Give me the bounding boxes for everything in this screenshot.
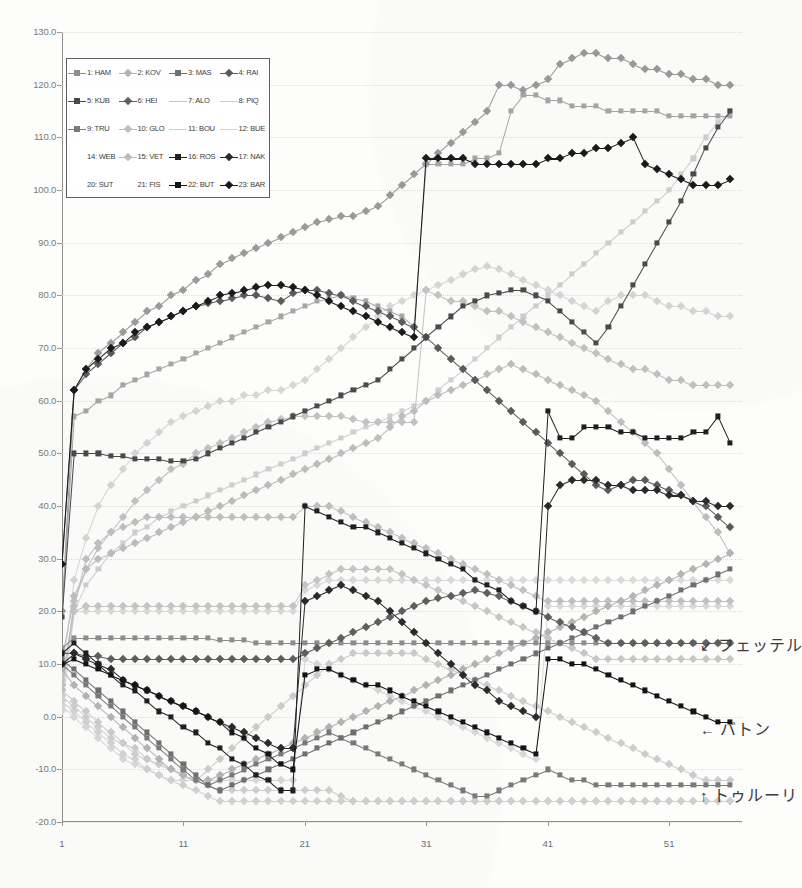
- legend-label: 20: SUT: [87, 181, 113, 189]
- legend-marker-icon: [220, 152, 238, 162]
- gridline: [62, 822, 742, 823]
- chart-root: 130.0120.0110.0100.090.080.070.060.050.0…: [0, 0, 802, 888]
- legend-item[interactable]: 10: GLO: [118, 116, 169, 142]
- series-marker: [62, 661, 65, 666]
- legend-item[interactable]: 16: ROS: [168, 144, 219, 170]
- legend-item[interactable]: 11: BOU: [168, 116, 219, 142]
- y-tick-label: 80.0: [0, 289, 56, 300]
- series-marker: [460, 719, 465, 724]
- series-marker: [594, 667, 599, 672]
- y-tick-label: 0.0: [0, 711, 56, 722]
- series-marker: [157, 693, 162, 698]
- legend-label: 23: BAR: [239, 181, 266, 189]
- series-marker: [205, 714, 210, 719]
- y-tick-label: 70.0: [0, 342, 56, 353]
- legend-item[interactable]: 1: HAM: [67, 60, 118, 86]
- legend-item[interactable]: 17: NAK: [219, 144, 270, 170]
- series-marker: [654, 693, 659, 698]
- y-tick-label: 100.0: [0, 184, 56, 195]
- series-segment: [292, 675, 305, 770]
- series-marker: [96, 667, 101, 672]
- legend-label: 1: HAM: [87, 69, 111, 77]
- legend-item[interactable]: 9: TRU: [67, 116, 118, 142]
- legend-item[interactable]: 5: KUB: [67, 88, 118, 114]
- legend-row: 1: HAM2: KOV3: MAS4: RAI: [67, 59, 269, 87]
- legend-marker-icon: [119, 68, 137, 78]
- legend-item[interactable]: 12: BUE: [219, 116, 270, 142]
- series-marker: [144, 688, 149, 693]
- series-marker: [278, 761, 283, 766]
- x-tick-label: 51: [664, 838, 675, 849]
- series-marker: [569, 661, 574, 666]
- y-tick-label: 60.0: [0, 395, 56, 406]
- y-tick-label: 130.0: [0, 26, 56, 37]
- series-marker: [217, 719, 222, 724]
- series-marker: [509, 740, 514, 745]
- series-marker: [642, 688, 647, 693]
- legend-marker-icon: [220, 96, 238, 106]
- legend-item[interactable]: 6: HEI: [118, 88, 169, 114]
- legend-label: 5: KUB: [87, 97, 110, 105]
- legend-label: 11: BOU: [188, 125, 215, 133]
- y-tick-label: 90.0: [0, 237, 56, 248]
- series-marker: [606, 672, 611, 677]
- series-marker: [132, 682, 137, 687]
- series-marker: [691, 709, 696, 714]
- y-tick-label: 20.0: [0, 605, 56, 616]
- annotation-label: フェッテル: [718, 637, 802, 654]
- series-marker: [229, 730, 234, 735]
- legend-marker-icon: [220, 180, 238, 190]
- series-marker: [618, 677, 623, 682]
- legend-marker-icon: [220, 124, 238, 134]
- legend-marker-icon: [169, 152, 187, 162]
- legend-item[interactable]: 4: RAI: [219, 60, 270, 86]
- legend-item[interactable]: 8: PIQ: [219, 88, 270, 114]
- x-tick-label: 31: [421, 838, 432, 849]
- legend-item[interactable]: 15: VET: [118, 144, 169, 170]
- legend-label: 6: HEI: [138, 97, 158, 105]
- legend-label: 8: PIQ: [239, 97, 259, 105]
- series-marker: [497, 735, 502, 740]
- legend-label: 4: RAI: [239, 69, 259, 77]
- series-marker: [108, 672, 113, 677]
- y-tick-label: -20.0: [0, 816, 56, 827]
- series-marker: [339, 672, 344, 677]
- annotation-label: トゥルーリ: [713, 787, 798, 804]
- series-marker: [84, 661, 89, 666]
- legend-row: 9: TRU10: GLO11: BOU12: BUE: [67, 115, 269, 143]
- chart-legend: 1: HAM2: KOV3: MAS4: RAI5: KUB6: HEI7: A…: [66, 58, 270, 198]
- series-marker: [375, 682, 380, 687]
- series-marker: [667, 698, 672, 703]
- x-tick-label: 21: [300, 838, 311, 849]
- legend-item[interactable]: 23: BAR: [219, 172, 270, 198]
- legend-marker-icon: [169, 124, 187, 134]
- series-marker: [557, 656, 562, 661]
- y-tick-label: 120.0: [0, 79, 56, 90]
- legend-label: 17: NAK: [239, 153, 266, 161]
- series-marker: [314, 667, 319, 672]
- legend-item[interactable]: 3: MAS: [168, 60, 219, 86]
- series-marker: [412, 698, 417, 703]
- driver-annotation: ←バトン: [700, 716, 771, 740]
- series-marker: [302, 672, 307, 677]
- legend-item[interactable]: 14: WEB: [67, 144, 118, 170]
- legend-row: 14: WEB15: VET16: ROS17: NAK: [67, 143, 269, 171]
- series-marker: [436, 709, 441, 714]
- series-marker: [545, 656, 550, 661]
- legend-item[interactable]: 7: ALO: [168, 88, 219, 114]
- legend-item[interactable]: 22: BUT: [168, 172, 219, 198]
- legend-label: 21: FIS: [138, 181, 161, 189]
- series-marker: [679, 704, 684, 709]
- legend-row: 5: KUB6: HEI7: ALO8: PIQ: [67, 87, 269, 115]
- legend-marker-icon: [169, 180, 187, 190]
- legend-item[interactable]: 2: KOV: [118, 60, 169, 86]
- series-marker: [399, 693, 404, 698]
- legend-label: 16: ROS: [188, 153, 215, 161]
- legend-item[interactable]: 20: SUT: [67, 172, 118, 198]
- legend-marker-icon: [169, 96, 187, 106]
- series-marker: [363, 682, 368, 687]
- legend-item[interactable]: 21: FIS: [118, 172, 169, 198]
- y-tick-label: 30.0: [0, 553, 56, 564]
- series-marker: [193, 709, 198, 714]
- series-marker: [181, 704, 186, 709]
